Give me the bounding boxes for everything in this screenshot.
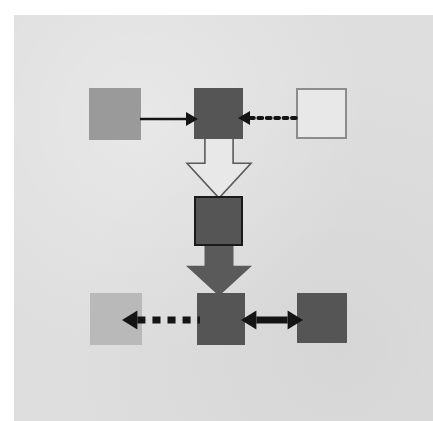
diagram-stage [14, 15, 433, 421]
diagram-screenshot [0, 0, 433, 421]
dotted-left-arrow-top[interactable] [238, 104, 300, 132]
diagram-canvas [14, 15, 433, 421]
process-block[interactable] [194, 196, 243, 246]
hub-block[interactable] [197, 293, 245, 345]
dashed-left-arrow-bottom[interactable] [122, 306, 200, 334]
empty-block[interactable] [296, 88, 347, 139]
solid-right-arrow-top[interactable] [140, 106, 198, 132]
filled-down-block-arrow[interactable] [186, 244, 252, 296]
source-block[interactable] [89, 88, 141, 140]
output-block-right[interactable] [297, 293, 347, 343]
merge-block[interactable] [194, 88, 243, 139]
hollow-down-block-arrow[interactable] [187, 138, 251, 198]
solid-double-arrow-bottom[interactable] [241, 306, 303, 334]
